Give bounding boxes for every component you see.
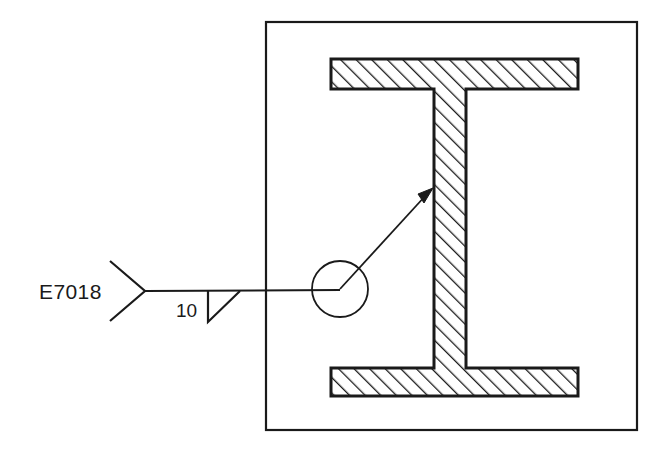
welding-symbol-diagram: E7018 10 — [0, 0, 663, 453]
beam-section-hatching — [320, 45, 595, 410]
fillet-weld-triangle — [208, 291, 240, 322]
weld-size-label: 10 — [176, 300, 197, 321]
drawing-canvas: E7018 10 — [0, 0, 663, 453]
reference-line — [145, 290, 340, 291]
electrode-label: E7018 — [39, 280, 102, 303]
leader-line — [340, 194, 427, 289]
tail-fork — [110, 261, 145, 321]
